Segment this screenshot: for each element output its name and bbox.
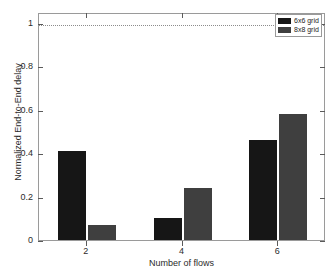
legend-item-6x6-grid[interactable]: 6x6 grid bbox=[278, 17, 319, 25]
y-axis-tick bbox=[38, 111, 43, 112]
chart-figure: 00.20.40.60.81246 Number of flows Normal… bbox=[0, 0, 332, 275]
bar-6x6-grid-6 bbox=[249, 140, 277, 240]
plot-area bbox=[38, 13, 325, 241]
bar-6x6-grid-4 bbox=[154, 218, 182, 240]
y-axis-title: Normalized End-to-End delay bbox=[13, 22, 23, 222]
y-axis-tick bbox=[38, 24, 43, 25]
y-axis-tick bbox=[38, 198, 43, 199]
y-axis-tick-right bbox=[320, 154, 325, 155]
x-axis-tick-label: 6 bbox=[257, 246, 297, 256]
y-axis-tick-right bbox=[320, 67, 325, 68]
legend-label: 8x8 grid bbox=[294, 26, 319, 34]
x-axis-tick-label: 4 bbox=[162, 246, 202, 256]
bar-6x6-grid-2 bbox=[58, 151, 86, 240]
y-axis-tick bbox=[38, 241, 43, 242]
y-axis-tick-right bbox=[320, 198, 325, 199]
legend-label: 6x6 grid bbox=[294, 17, 319, 25]
legend[interactable]: 6x6 grid8x8 grid bbox=[275, 14, 322, 37]
x-axis-tick-top bbox=[86, 13, 87, 18]
bar-8x8-grid-6 bbox=[279, 114, 307, 240]
y-axis-tick bbox=[38, 67, 43, 68]
bar-8x8-grid-4 bbox=[184, 188, 212, 240]
legend-swatch-icon bbox=[278, 27, 291, 33]
y-axis-tick-right bbox=[320, 111, 325, 112]
bar-8x8-grid-2 bbox=[88, 225, 116, 240]
legend-item-8x8-grid[interactable]: 8x8 grid bbox=[278, 26, 319, 34]
y-axis-tick bbox=[38, 154, 43, 155]
legend-swatch-icon bbox=[278, 18, 291, 24]
y-axis-tick-label: 0 bbox=[0, 236, 33, 245]
x-axis-title: Number of flows bbox=[38, 258, 325, 268]
x-axis-tick-top bbox=[182, 13, 183, 18]
x-axis-tick-label: 2 bbox=[66, 246, 106, 256]
y-axis-tick-right bbox=[320, 241, 325, 242]
